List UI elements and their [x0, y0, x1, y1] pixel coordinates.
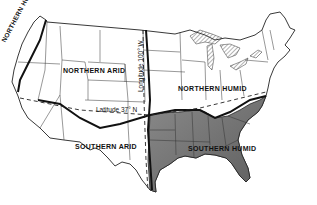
- us-climate-regions-map: [0, 0, 317, 205]
- label-latitude-37: Latitude 37° N: [96, 106, 137, 113]
- label-northern-arid: NORTHERN ARID: [63, 67, 125, 74]
- label-southern-humid: SOUTHERN HUMID: [188, 145, 256, 152]
- label-longitude-100: Longitude 100° W: [137, 40, 144, 92]
- label-southern-arid: SOUTHERN ARID: [75, 143, 137, 150]
- label-northern-humid-east: NORTHERN HUMID: [178, 85, 247, 92]
